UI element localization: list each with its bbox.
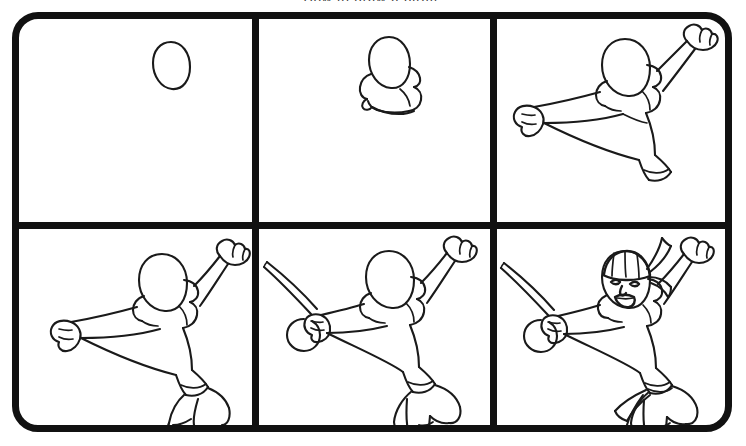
- cutlass-hilt: [524, 315, 567, 352]
- bandana-tails: [647, 238, 671, 297]
- step-3-artwork: [497, 19, 725, 222]
- waistband: [176, 370, 208, 396]
- head-oval: [139, 254, 187, 311]
- cutlass-hilt: [287, 314, 330, 351]
- tutorial-step-panel-4: [19, 229, 252, 425]
- tutorial-step-panel-6: [497, 229, 725, 425]
- tutorial-step-panel-5: [259, 229, 490, 425]
- raised-arm: [194, 256, 228, 306]
- clipped-title-fragment: How to draw a pirate: [0, 0, 746, 1]
- cutlass-blade: [264, 262, 317, 314]
- head-oval: [366, 251, 414, 308]
- head-oval: [153, 42, 190, 89]
- head-oval: [369, 37, 410, 88]
- raised-arm: [657, 41, 695, 91]
- step-1-artwork: [19, 19, 252, 222]
- head-oval: [602, 39, 650, 96]
- step-6-artwork: [497, 229, 725, 425]
- drawing-tutorial-page: How to draw a pirate: [0, 0, 746, 446]
- grid-divider-horizontal: [12, 222, 732, 229]
- fist-upper: [217, 240, 250, 265]
- step-5-artwork: [259, 229, 490, 425]
- fist-left: [51, 321, 81, 352]
- cutlass-blade: [501, 263, 554, 315]
- tutorial-step-panel-3: [497, 19, 725, 222]
- shirt-cuff: [639, 155, 671, 181]
- extended-arm: [71, 307, 160, 338]
- shoulder-yoke: [368, 67, 421, 114]
- step-4-artwork: [19, 229, 252, 425]
- tutorial-step-panel-2: [259, 19, 490, 222]
- step-2-artwork: [259, 19, 490, 222]
- raised-arm: [421, 253, 455, 303]
- fist-upper: [681, 238, 714, 263]
- fist-left: [514, 106, 544, 137]
- raised-arm: [658, 254, 692, 304]
- fist-upper: [444, 237, 477, 262]
- waistband: [403, 367, 435, 393]
- fist-upper: [684, 25, 718, 50]
- tutorial-step-panel-1: [19, 19, 252, 222]
